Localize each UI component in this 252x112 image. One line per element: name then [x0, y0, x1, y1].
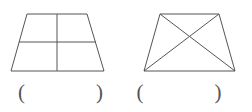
paren-open-left: ( — [18, 78, 25, 106]
paren-close-left: ) — [96, 78, 103, 106]
answer-blank-left[interactable] — [30, 80, 92, 104]
answer-blank-right[interactable] — [156, 80, 218, 104]
trapezoid-outline-right — [144, 14, 235, 71]
paren-open-right: ( — [137, 78, 144, 106]
figure-right — [144, 14, 235, 71]
answer-left: ( ) — [0, 78, 126, 108]
worksheet-page: ( ) ( ) — [0, 0, 251, 112]
answer-row: ( ) ( ) — [0, 78, 251, 108]
answer-right: ( ) — [126, 78, 252, 108]
diagonal-top-right-to-bottom-left — [144, 14, 219, 71]
paren-close-right: ) — [215, 78, 222, 106]
figure-left — [11, 14, 104, 71]
diagonal-top-left-to-bottom-right — [160, 14, 235, 71]
